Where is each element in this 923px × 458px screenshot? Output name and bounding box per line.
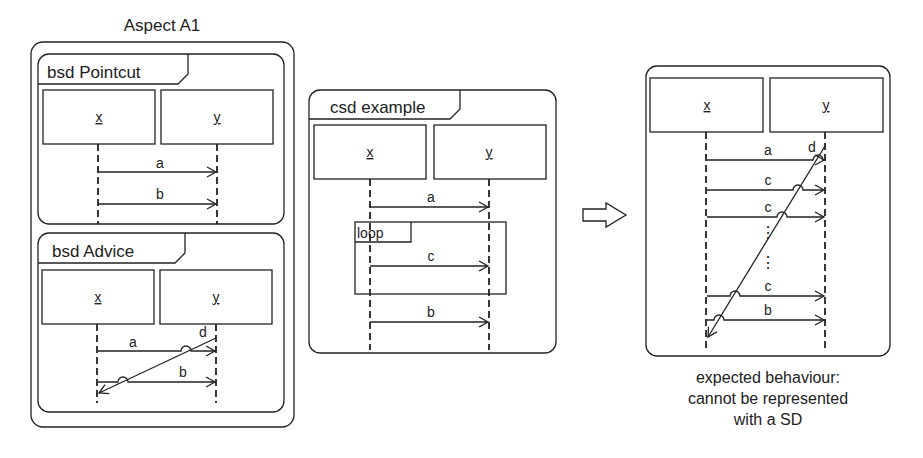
ellipsis: ⋮ [760,254,776,271]
aspect-a1-frame [31,42,294,427]
lifeline-y: y [213,289,220,305]
aspect-title: Aspect A1 [124,16,201,35]
lifeline-y: y [823,97,830,113]
message-label-d: d [808,139,816,155]
message-label: c [428,248,435,264]
lifeline-x: x [95,289,102,305]
pointcut-label: bsd Pointcut [47,63,141,82]
csd-example-label: csd example [330,98,425,117]
message-label: a [156,155,164,171]
caption-line: expected behaviour: [696,369,840,386]
message-label: c [765,172,772,188]
diagram-canvas: Aspect A1 bsd Pointcut x y a b bsd Advic… [0,0,923,458]
message-label: b [427,304,435,320]
loop-label: loop [357,225,384,241]
message-label: c [765,199,772,215]
message-label: a [764,142,772,158]
advice-label: bsd Advice [52,242,134,261]
caption-line: with a SD [733,411,802,428]
lifeline-y: y [214,109,221,125]
message-label: c [765,278,772,294]
ellipsis: ⋮ [760,224,776,241]
right-arrow-icon [583,203,626,227]
lifeline-x: x [367,144,374,160]
message-label: b [764,302,772,318]
message-label: b [156,186,164,202]
lifeline-x: x [704,97,711,113]
message-label: a [129,334,137,350]
message-label: a [427,189,435,205]
message-label-d: d [199,324,207,340]
message-label: b [179,364,187,380]
caption-line: cannot be represented [688,390,848,407]
lifeline-x: x [96,109,103,125]
lifeline-y: y [486,144,493,160]
